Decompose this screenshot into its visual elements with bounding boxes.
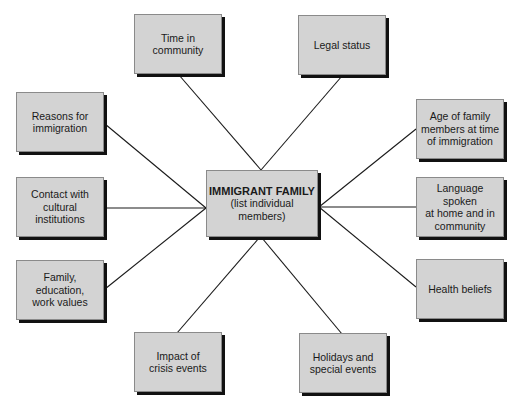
node-label-line: community <box>435 220 486 233</box>
node-label-line: Age of family <box>430 110 491 123</box>
node-reasons-for-immigration: Reasons for immigration <box>16 92 104 152</box>
node-label-line: crisis events <box>149 362 207 375</box>
node-label-line: cultural <box>43 201 77 214</box>
node-label-line: members at time <box>421 123 499 136</box>
node-label-line: community <box>153 44 204 57</box>
node-label-line: Legal status <box>314 39 371 52</box>
connector-legal-status <box>261 76 342 170</box>
node-age-of-family-members: Age of family members at time of immigra… <box>416 99 504 159</box>
node-label-line: work values <box>32 296 87 309</box>
node-family-education-work-values: Family, education, work values <box>16 260 104 320</box>
connector-impact-of-crisis-events <box>177 238 259 333</box>
node-health-beliefs: Health beliefs <box>416 259 504 319</box>
node-label-line: of immigration <box>427 135 493 148</box>
node-contact-cultural-institutions: Contact with cultural institutions <box>16 177 104 237</box>
node-label-line: Family, education, <box>19 271 101 296</box>
node-legal-status: Legal status <box>298 15 386 75</box>
node-language-spoken: Language spoken at home and in community <box>416 177 504 237</box>
node-time-in-community: Time in community <box>134 14 222 74</box>
node-label-line: at home and in <box>425 207 494 220</box>
node-holidays-special-events: Holidays and special events <box>299 333 387 393</box>
node-label-line: special events <box>310 363 377 376</box>
node-label-line: institutions <box>35 213 85 226</box>
connector-age-of-family-members <box>319 129 416 207</box>
node-label-line: Contact with <box>31 188 89 201</box>
center-node-immigrant-family: IMMIGRANT FAMILY (list individual member… <box>206 170 318 237</box>
connector-time-in-community <box>179 75 261 170</box>
center-subtitle-line-2: members) <box>238 210 285 223</box>
immigrant-family-diagram: IMMIGRANT FAMILY (list individual member… <box>0 0 516 407</box>
connector-reasons-for-immigration <box>105 124 206 208</box>
node-label-line: Health beliefs <box>428 283 492 296</box>
node-label-line: Impact of <box>156 350 199 363</box>
connector-health-beliefs <box>319 207 416 287</box>
center-title: IMMIGRANT FAMILY <box>209 185 315 198</box>
node-label-line: Holidays and <box>313 351 374 364</box>
connector-holidays-special-events <box>262 238 342 334</box>
connector-family-education-work-values <box>105 208 206 289</box>
node-label-line: Language spoken <box>419 182 501 207</box>
node-impact-of-crisis-events: Impact of crisis events <box>134 332 222 392</box>
node-label-line: Reasons for <box>32 110 89 123</box>
node-label-line: immigration <box>33 122 87 135</box>
center-subtitle-line-1: (list individual <box>230 197 293 210</box>
node-label-line: Time in <box>161 32 195 45</box>
